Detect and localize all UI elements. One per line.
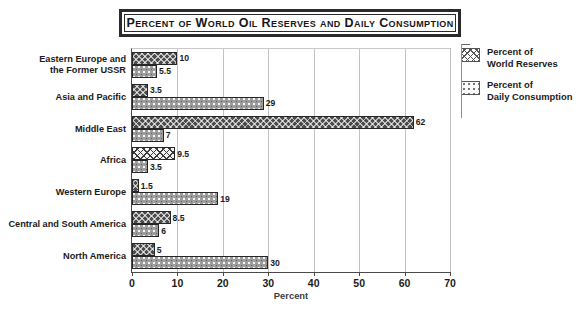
category-label: Eastern Europe and the Former USSR bbox=[6, 54, 126, 76]
legend-label-daily-consumption: Percent of Daily Consumption bbox=[487, 79, 572, 102]
category-row: Eastern Europe and the Former USSR105.5 bbox=[132, 49, 450, 81]
bar-value-label: 29 bbox=[266, 98, 276, 108]
legend-swatch-daily-consumption bbox=[461, 81, 480, 95]
x-axis-tick-label: 40 bbox=[308, 277, 320, 289]
bar-value-label: 3.5 bbox=[150, 85, 162, 95]
x-axis-tick bbox=[359, 272, 360, 276]
bar-value-label: 1.5 bbox=[141, 181, 153, 191]
category-label: Central and South America bbox=[6, 219, 126, 230]
bar-daily-consumption: 6 bbox=[132, 224, 159, 237]
bar-daily-consumption: 29 bbox=[132, 97, 264, 110]
legend-top-tick bbox=[461, 44, 470, 45]
x-axis-tick-label: 30 bbox=[262, 277, 274, 289]
bar-world-reserves: 8.5 bbox=[132, 211, 171, 224]
bar-value-label: 9.5 bbox=[177, 149, 189, 159]
bar-daily-consumption: 3.5 bbox=[132, 160, 148, 173]
bar-world-reserves: 1.5 bbox=[132, 179, 139, 192]
legend-item-daily-consumption: Percent of Daily Consumption bbox=[461, 79, 579, 102]
chart-legend: Percent of World Reserves Percent of Dai… bbox=[461, 46, 579, 112]
bar-value-label: 10 bbox=[179, 53, 189, 63]
x-axis-tick-label: 20 bbox=[217, 277, 229, 289]
plot-area: 010203040506070PercentEastern Europe and… bbox=[131, 48, 451, 273]
chart-title-box: Percent of World Oil Reserves and Daily … bbox=[119, 9, 461, 37]
x-axis-tick bbox=[223, 272, 224, 276]
gridline bbox=[450, 49, 451, 272]
bar-world-reserves: 62 bbox=[132, 116, 414, 129]
x-axis-tick-label: 50 bbox=[353, 277, 365, 289]
bar-value-label: 7 bbox=[166, 130, 171, 140]
bar-value-label: 62 bbox=[416, 117, 426, 127]
bar-value-label: 3.5 bbox=[150, 162, 162, 172]
bar-daily-consumption: 7 bbox=[132, 129, 164, 142]
legend-side-rule bbox=[461, 44, 462, 118]
page-title: Percent of World Oil Reserves and Daily … bbox=[126, 16, 453, 30]
x-axis-tick-label: 70 bbox=[444, 277, 456, 289]
x-axis-tick bbox=[405, 272, 406, 276]
x-axis-title: Percent bbox=[274, 290, 308, 301]
bar-value-label: 6 bbox=[161, 226, 166, 236]
category-row: Africa9.53.5 bbox=[132, 145, 450, 177]
x-axis-tick bbox=[132, 272, 133, 276]
legend-swatch-world-reserves bbox=[461, 48, 480, 62]
bar-daily-consumption: 5.5 bbox=[132, 65, 157, 78]
bar-world-reserves: 9.5 bbox=[132, 147, 175, 160]
x-axis-tick bbox=[450, 272, 451, 276]
category-label: North America bbox=[6, 251, 126, 262]
x-axis-tick bbox=[177, 272, 178, 276]
x-axis-tick bbox=[268, 272, 269, 276]
bar-world-reserves: 10 bbox=[132, 52, 177, 65]
category-label: Asia and Pacific bbox=[6, 91, 126, 102]
legend-item-world-reserves: Percent of World Reserves bbox=[461, 46, 579, 69]
category-row: Central and South America8.56 bbox=[132, 208, 450, 240]
x-axis-tick bbox=[314, 272, 315, 276]
category-row: North America530 bbox=[132, 240, 450, 272]
bar-daily-consumption: 19 bbox=[132, 192, 218, 205]
bar-value-label: 5.5 bbox=[159, 66, 171, 76]
bar-daily-consumption: 30 bbox=[132, 256, 268, 269]
bar-value-label: 30 bbox=[270, 258, 280, 268]
bar-world-reserves: 5 bbox=[132, 243, 155, 256]
category-label: Western Europe bbox=[6, 187, 126, 198]
x-axis-tick-label: 10 bbox=[172, 277, 184, 289]
bar-value-label: 8.5 bbox=[173, 213, 185, 223]
legend-label-world-reserves: Percent of World Reserves bbox=[487, 46, 558, 69]
bar-value-label: 5 bbox=[157, 245, 162, 255]
category-label: Middle East bbox=[6, 123, 126, 134]
x-axis-tick-label: 60 bbox=[399, 277, 411, 289]
bar-value-label: 19 bbox=[220, 194, 230, 204]
category-row: Middle East627 bbox=[132, 113, 450, 145]
x-axis-tick-label: 0 bbox=[129, 277, 135, 289]
chart-title-inner-border: Percent of World Oil Reserves and Daily … bbox=[124, 14, 456, 32]
bar-world-reserves: 3.5 bbox=[132, 84, 148, 97]
category-label: Africa bbox=[6, 155, 126, 166]
category-row: Western Europe1.519 bbox=[132, 176, 450, 208]
category-row: Asia and Pacific3.529 bbox=[132, 81, 450, 113]
